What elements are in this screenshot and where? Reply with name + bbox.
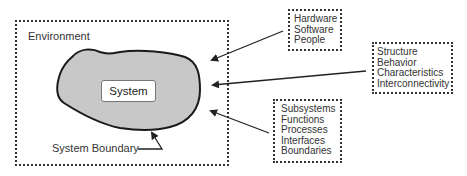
boundary-label: System Boundary — [52, 143, 139, 154]
arrow-elements — [211, 111, 269, 133]
list-item: Subsystems — [281, 104, 335, 115]
list-item: Structure — [377, 47, 449, 58]
elements-list: Subsystems Functions Processes Interface… — [281, 104, 335, 157]
arrow-boundary — [138, 133, 162, 149]
arrow-attributes — [213, 71, 366, 85]
list-item: Hardware — [294, 14, 337, 25]
list-item: Interconnectivity — [377, 79, 449, 90]
resources-list: Hardware Software People — [294, 14, 337, 46]
system-label: System — [101, 80, 156, 102]
list-item: People — [294, 35, 337, 46]
arrow-resources — [212, 31, 283, 60]
list-item: Boundaries — [281, 146, 335, 157]
attributes-list: Structure Behavior Characteristics Inter… — [377, 47, 449, 89]
